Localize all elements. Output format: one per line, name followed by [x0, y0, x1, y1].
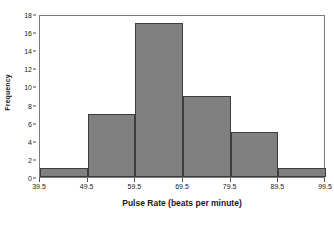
y-axis-tick-mark — [33, 123, 36, 124]
y-axis-tick-labels: 024681012141618 — [14, 15, 36, 178]
histogram-bar — [278, 168, 326, 177]
y-axis-tick-label: 16 — [24, 30, 32, 37]
histogram-chart: Frequency 024681012141618 39.549.559.569… — [0, 0, 334, 225]
y-axis-tick-mark — [33, 51, 36, 52]
x-axis-tick-labels: 39.549.559.569.579.589.599.5 — [39, 183, 325, 195]
y-axis-title: Frequency — [0, 0, 14, 185]
y-axis-title-label: Frequency — [4, 74, 11, 110]
y-axis-tick-label: 18 — [24, 12, 32, 19]
y-axis-tick-mark — [33, 141, 36, 142]
x-axis-title: Pulse Rate (beats per minute) — [39, 198, 325, 208]
y-axis-tick-label: 8 — [28, 102, 32, 109]
x-axis-tick-mark — [182, 178, 183, 182]
y-axis-tick-mark — [33, 15, 36, 16]
y-axis-tick-label: 2 — [28, 156, 32, 163]
y-axis-tick-mark — [33, 69, 36, 70]
x-axis-tick-mark — [324, 178, 325, 182]
y-axis-tick-label: 4 — [28, 138, 32, 145]
y-axis-tick-mark — [33, 105, 36, 106]
x-axis-tick-mark — [230, 178, 231, 182]
histogram-bar — [88, 114, 136, 177]
y-axis-tick-mark — [33, 87, 36, 88]
x-axis-tick-mark — [277, 178, 278, 182]
histogram-bar — [135, 23, 183, 177]
y-axis-tick-label: 10 — [24, 84, 32, 91]
x-axis-tick-mark — [39, 178, 40, 182]
y-axis-tick-label: 12 — [24, 66, 32, 73]
histogram-bar — [231, 132, 279, 177]
plot-area — [39, 15, 325, 178]
x-axis-tick-label: 89.5 — [271, 183, 285, 191]
x-axis-tick-label: 49.5 — [80, 183, 94, 191]
histogram-bar — [183, 96, 231, 178]
x-axis-tick-mark — [134, 178, 135, 182]
y-axis-tick-label: 0 — [28, 175, 32, 182]
x-axis-tick-label: 59.5 — [128, 183, 142, 191]
histogram-bar — [40, 168, 88, 177]
x-axis-tick-label: 69.5 — [175, 183, 189, 191]
y-axis-tick-mark — [33, 178, 36, 179]
y-axis-tick-label: 14 — [24, 48, 32, 55]
x-axis-tick-mark — [87, 178, 88, 182]
y-axis-tick-label: 6 — [28, 120, 32, 127]
x-axis-tick-label: 79.5 — [223, 183, 237, 191]
y-axis-tick-mark — [33, 159, 36, 160]
y-axis-tick-mark — [33, 33, 36, 34]
x-axis-tick-label: 39.5 — [32, 183, 46, 191]
bars-layer — [40, 16, 324, 177]
x-axis-tick-label: 99.5 — [318, 183, 332, 191]
x-axis-tick-marks — [39, 178, 325, 182]
